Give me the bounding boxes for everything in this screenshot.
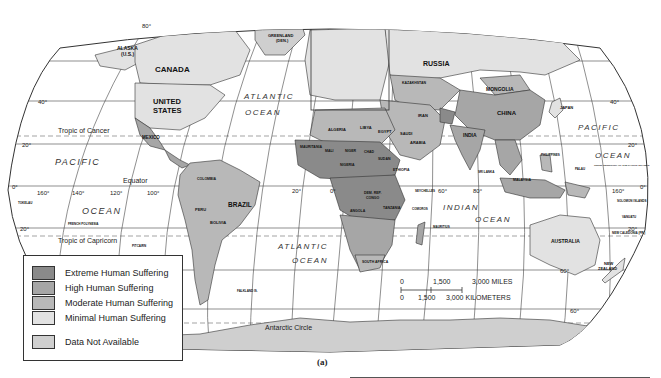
country-label: MALI [325,149,334,153]
ocean-label: OCEAN [245,108,281,117]
lat-label: 80° [142,23,152,29]
country-label: NEW CALEDONIA (FR.) [612,231,645,235]
lat-label: 20° [628,142,638,148]
country-label: MONGOLIA [486,86,514,92]
scale-km-1500: 1,500 [418,294,436,301]
country-label: MAURITANIA [300,145,322,149]
country-label: SOUTH AFRICA [362,260,389,264]
country-label: DEM. REP. [364,191,382,195]
legend-swatch [32,311,55,325]
country-label: ALGERIA [328,127,346,132]
country-label: CANADA [155,65,190,74]
legend-label: Minimal Human Suffering [65,313,166,323]
lon-label: 160° [612,188,625,194]
country-label: PHILIPPINES [541,153,560,157]
country-label: RUSSIA [423,60,449,67]
scale-km-0: 0 [400,294,404,301]
legend-item-moderate: Moderate Human Suffering [32,295,173,310]
region-europe [305,28,390,100]
country-label: SEYCHELLES [415,189,435,193]
ocean-label: PACIFIC [55,157,100,167]
country-label: STATES [153,106,181,115]
legend-swatch [32,266,55,280]
country-label: KAZAKHSTAN [402,81,427,85]
legend-item-high: High Human Suffering [32,280,153,295]
lat-label: 20° [22,142,32,148]
country-label: MALAYSIA [513,178,531,182]
country-label: BOLIVIA [210,220,226,225]
country-label: ETHIOPIA [393,168,410,172]
lon-label: 0° [330,188,336,194]
country-label: LIBYA [360,125,372,130]
scale-km-3000: 3,000 KILOMETERS [446,294,511,301]
ocean-label: INDIAN [443,203,479,212]
country-label: INDIA [463,132,477,138]
legend-item-extreme: Extreme Human Suffering [32,265,168,280]
lat-label: 40° [610,99,620,105]
country-label: CHAD [364,150,375,154]
country-label: MAURITIUS [433,225,450,229]
country-label: IRAN [418,113,428,118]
country-label: EGYPT [378,129,392,134]
country-label: NIGER [345,149,357,153]
ocean-label: PACIFIC [578,123,619,132]
country-label: MEXICO [142,135,160,140]
scale-miles-0: 0 [400,278,404,285]
equator-label: Equator [123,177,148,185]
legend-swatch [32,281,55,295]
country-label: COMOROS [412,207,428,211]
country-label: TOKELAU [18,201,32,205]
legend-label: Extreme Human Suffering [65,268,168,278]
country-label: TANZANIA [383,206,401,210]
lat-label: 0° [640,184,646,190]
legend-label: High Human Suffering [65,283,153,293]
region-philippines [540,155,552,172]
antarctic-circle-label: Antarctic Circle [265,324,312,331]
scale-miles-3000: 3,000 MILES [472,278,513,285]
legend-item-minimal: Minimal Human Suffering [32,310,166,325]
country-label: CHINA [497,110,517,116]
ocean-label: OCEAN [292,256,328,265]
country-label: FRENCH POLYNESIA [68,222,99,226]
country-label: AUSTRALIA [551,238,580,244]
ocean-label: OCEAN [475,215,511,224]
ocean-label: OCEAN [595,151,631,160]
country-label: (DEN.) [276,38,289,43]
lat-label: 20° [20,226,30,232]
country-label: PERU [195,207,206,212]
country-label: VANUATU [622,215,636,219]
legend-swatch [32,335,55,349]
ocean-label: ATLANTIC [243,92,294,101]
country-label: SRI LANKA [478,170,495,174]
scale-miles-1500: 1,500 [433,278,451,285]
ocean-label: OCEAN [82,206,122,216]
lat-label: 0° [12,184,18,190]
lon-label: 120° [110,190,123,196]
lat-label: 60° [560,268,570,274]
country-label: PITCAIRN [132,244,146,248]
country-label: UNITED [153,97,182,106]
legend-label: Data Not Available [65,337,139,347]
lon-label: 80° [473,188,483,194]
legend: Extreme Human Suffering High Human Suffe… [23,255,183,361]
country-label: PALAU [575,167,585,171]
country-label: (U.S.) [121,51,134,57]
country-label: CONGO [366,196,380,200]
country-label: TRUST TERRITORY OF THE PACIFIC ISLANDS [594,164,650,167]
country-label: SOLOMON ISLANDS [617,199,647,203]
ocean-label: ATLANTIC [277,242,328,251]
lon-label: 160° [37,190,50,196]
lon-label: 20° [292,188,302,194]
tropic-cancer-label: Tropic of Cancer [58,127,110,135]
country-label: JAPAN [560,105,573,110]
lon-label: 140° [72,190,85,196]
country-label: COLOMBIA [197,177,217,181]
lon-label: 60° [438,188,448,194]
country-label: ARABIA [410,140,426,145]
legend-item-na: Data Not Available [32,334,139,349]
tropic-capricorn-label: Tropic of Capricorn [58,237,117,245]
country-label: BRAZIL [228,201,252,208]
country-label: FALKLAND IS. [237,289,258,293]
lat-label: 40° [38,99,48,105]
country-label: NIGERIA [340,163,355,167]
